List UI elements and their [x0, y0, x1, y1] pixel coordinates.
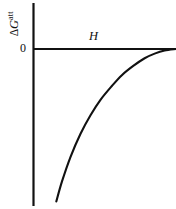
y-axis-tick-label-zero: 0 — [20, 42, 26, 54]
chart-figure: ΔGatt 0 H — [0, 0, 176, 209]
plot-area — [0, 0, 176, 209]
x-axis-label: H — [89, 30, 98, 43]
y-axis-label: ΔGatt — [7, 0, 21, 51]
y-axis-label-delta: Δ — [8, 29, 20, 36]
y-axis-label-superscript: att — [6, 11, 15, 20]
y-axis-label-symbol: G — [7, 20, 21, 29]
data-curve-attraction — [56, 49, 176, 201]
